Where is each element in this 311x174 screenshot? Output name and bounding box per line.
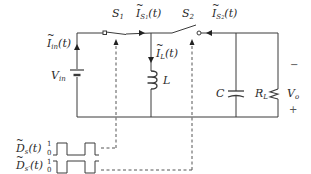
s2-contact (197, 31, 201, 35)
resistor-zigzag (270, 89, 278, 99)
ds-prime-low-level: 0 (47, 167, 51, 174)
circuit-diagram: S1 S2 IS1(t) IS2(t) Iin(t) IL(t) Vin L C… (0, 0, 311, 174)
label-vin: Vin (51, 70, 66, 83)
s2-blade (172, 25, 196, 33)
label-s1: S1 (112, 8, 124, 21)
wire-top-mid (126, 33, 151, 34)
label-vo: Vo (287, 88, 299, 101)
ds-high-level: 1 (47, 141, 51, 148)
ds-low-level: 0 (47, 150, 51, 157)
ds-prime-high-level: 1 (47, 159, 51, 166)
arrow-control-s2 (190, 39, 195, 45)
label-i-in: Iin(t) (47, 38, 71, 51)
label-load: RL (255, 88, 268, 101)
arrow-i-s2 (206, 30, 212, 36)
label-i-s2: IS2(t) (212, 8, 237, 21)
arrow-control-s1 (114, 39, 119, 45)
waveform-ds-prime (53, 161, 99, 173)
label-vo-minus: − (290, 60, 298, 70)
label-vo-plus: + (289, 105, 297, 115)
label-i-l: IL(t) (156, 48, 178, 61)
label-ds-prime: Ds′(t) (16, 160, 43, 173)
arrow-i-l (148, 57, 154, 63)
arrow-i-s1 (139, 30, 145, 36)
inductor-coil (148, 71, 157, 89)
arrow-i-in (74, 44, 80, 50)
label-i-s1: IS1(t) (136, 8, 161, 21)
s1-contact (103, 31, 107, 35)
label-s2: S2 (182, 8, 194, 21)
label-inductor: L (163, 75, 170, 86)
waveform-ds (53, 143, 99, 155)
s1-blade (106, 32, 126, 35)
label-capacitor: C (216, 88, 224, 99)
